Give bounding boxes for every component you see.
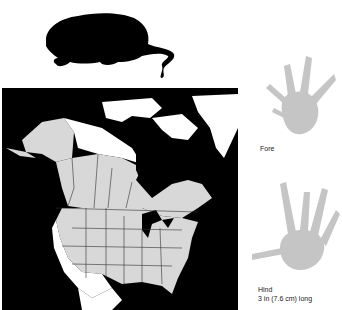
fore-track-icon — [262, 52, 340, 147]
range-map — [2, 88, 238, 310]
hind-track-label: Hind 3 in (7.6 cm) long — [258, 285, 312, 303]
hind-track-title: Hind — [258, 285, 312, 294]
hind-track-size: 3 in (7.6 cm) long — [258, 294, 312, 303]
fore-track-label: Fore — [260, 144, 274, 153]
muskrat-silhouette-icon — [38, 8, 178, 80]
hind-track-icon — [250, 178, 342, 278]
